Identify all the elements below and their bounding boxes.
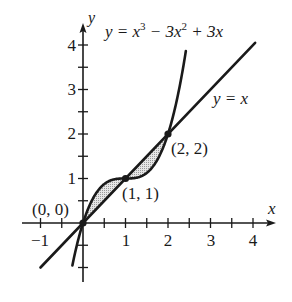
x-tick-label-2: 2 (164, 231, 173, 250)
y-axis (78, 23, 88, 282)
x-axis (22, 218, 276, 228)
line-y-equals-x (41, 43, 256, 268)
y-tick-label-4: 4 (68, 36, 77, 55)
graph-canvas: −1 1 2 3 4 1 2 3 4 x y y = x3 − 3x2 + 3x… (0, 0, 292, 302)
x-tick-label-neg1: −1 (31, 231, 49, 250)
y-tick-label-1: 1 (68, 169, 77, 188)
y-axis-label: y (86, 9, 96, 27)
line-equation-label: y = x (211, 89, 249, 108)
x-axis-label: x (267, 199, 276, 218)
x-tick-label-1: 1 (122, 231, 131, 250)
point-label-1-1: (1, 1) (122, 184, 159, 203)
cubic-equation-label: y = x3 − 3x2 + 3x (103, 20, 224, 41)
y-tick-label-3: 3 (68, 80, 77, 99)
intersection-point (122, 175, 129, 182)
y-tick-labels: 1 2 3 4 (68, 36, 77, 188)
x-tick-label-4: 4 (249, 231, 258, 250)
x-tick-label-3: 3 (207, 231, 216, 250)
intersection-point (79, 219, 86, 226)
y-tick-label-2: 2 (68, 124, 77, 143)
point-label-0-0: (0, 0) (32, 200, 69, 219)
intersection-point (164, 130, 171, 137)
point-label-2-2: (2, 2) (171, 139, 208, 158)
